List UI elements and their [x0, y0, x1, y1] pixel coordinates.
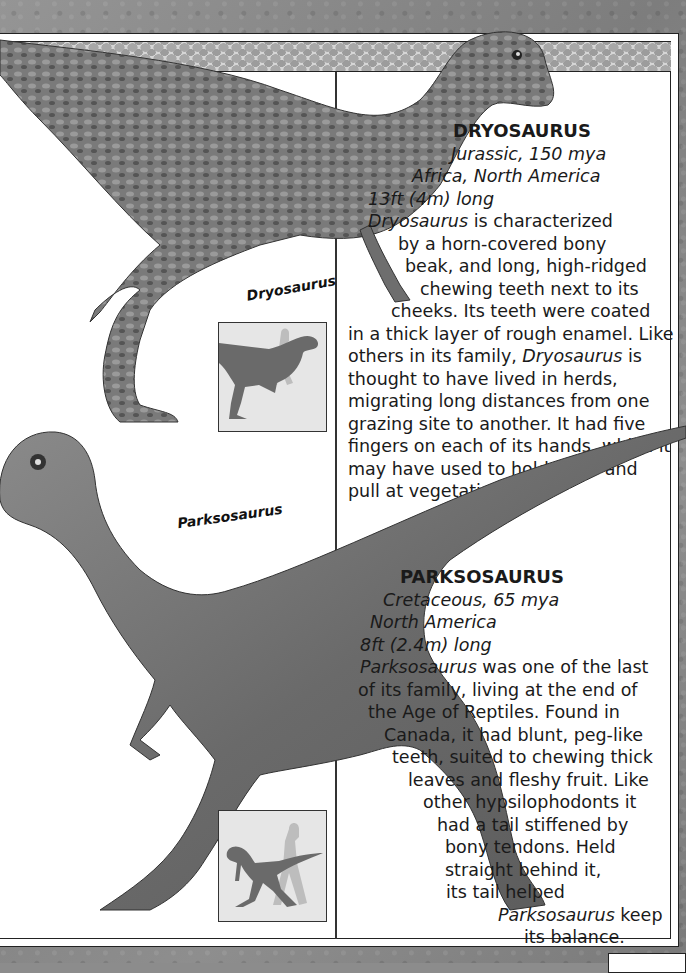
dryosaurus-body-line: Dryosaurus is characterized [368, 210, 686, 233]
parksosaurus-location: North America [370, 611, 658, 634]
parksosaurus-body-line: leaves and fleshy fruit. Like [408, 769, 686, 792]
parksosaurus-scale-icon [218, 810, 327, 922]
parksosaurus-body-line: bony tendons. Held [445, 836, 686, 859]
parksosaurus-heading: PARKSOSAURUS [400, 566, 686, 589]
parksosaurus-body-line: straight behind it, [445, 859, 686, 882]
dryosaurus-body-line: others in its family, Dryosaurus is [348, 345, 673, 368]
parksosaurus-body-line: Canada, it had blunt, peg-like [384, 724, 672, 747]
parksosaurus-body-line: had a tail stiffened by [437, 814, 686, 837]
dryosaurus-heading: DRYOSAURUS [453, 120, 686, 143]
parksosaurus-body-line: Parksosaurus was one of the last [360, 656, 648, 679]
dryosaurus-body-line: by a horn-covered bony [398, 233, 686, 256]
dryosaurus-body-line: chewing teeth next to its [420, 278, 686, 301]
dryosaurus-body-line: in a thick layer of rough enamel. Like [348, 323, 673, 346]
dryosaurus-body-line: migrating long distances from one [348, 390, 673, 413]
parksosaurus-body-line: its tail helped [446, 881, 686, 904]
parksosaurus-period: Cretaceous, 65 mya [383, 589, 671, 612]
dryosaurus-scale-icon [218, 322, 327, 432]
page-number-box [608, 953, 686, 973]
parksosaurus-body-line: its balance. [524, 926, 686, 949]
parksosaurus-body-line: the Age of Reptiles. Found in [368, 701, 656, 724]
parksosaurus-body-line: of its family, living at the end of [358, 679, 646, 702]
parksosaurus-text: PARKSOSAURUS Cretaceous, 65 mya North Am… [344, 566, 632, 949]
dryosaurus-body-line: thought to have lived in herds, [348, 368, 673, 391]
dryosaurus-location: Africa, North America [412, 165, 686, 188]
parksosaurus-length: 8ft (2.4m) long [360, 634, 648, 657]
dryosaurus-length: 13ft (4m) long [368, 188, 686, 211]
dryosaurus-period: Jurassic, 150 mya [451, 143, 686, 166]
parksosaurus-body-line: Parksosaurus keep [498, 904, 686, 927]
parksosaurus-body-line: other hypsilophodonts it [423, 791, 686, 814]
dryosaurus-body-line: beak, and long, high-ridged [405, 255, 686, 278]
dryosaurus-body-line: cheeks. Its teeth were coated [391, 300, 686, 323]
parksosaurus-body-line: teeth, suited to chewing thick [392, 746, 680, 769]
